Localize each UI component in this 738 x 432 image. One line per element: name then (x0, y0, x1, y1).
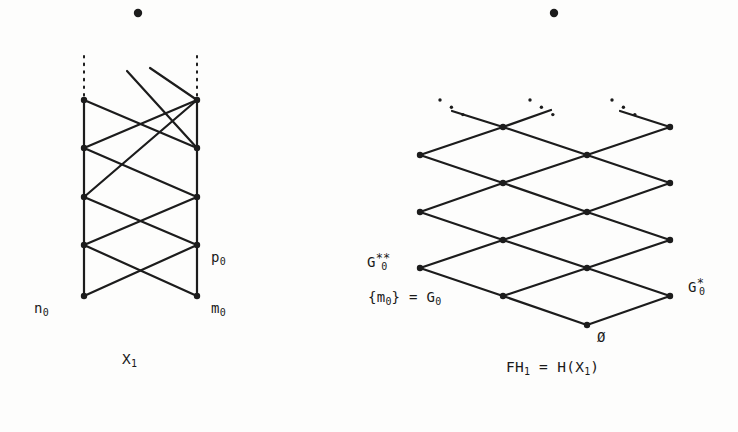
diamond-edge (420, 240, 503, 268)
ellipsis-dot (461, 113, 464, 116)
label-n0-text: n (34, 300, 43, 316)
diamond-edge (503, 155, 587, 183)
diamond-edge (587, 268, 670, 296)
lattice-node (194, 242, 200, 248)
diagonal-edge (84, 100, 197, 197)
floating-dots-group (134, 9, 558, 17)
lattice-node (81, 145, 87, 151)
lattice-node (667, 180, 673, 186)
diamond-edge (503, 296, 587, 325)
caption-x1-sub: 1 (131, 358, 137, 369)
label-empty-set-text: Ø (597, 329, 606, 345)
caption-fh1-equals: = (530, 359, 557, 375)
lattice-node (584, 265, 590, 271)
label-n0-sub: 0 (43, 307, 49, 318)
label-g0-double-star: G**0 (367, 252, 387, 272)
right-lattice-group (417, 98, 673, 328)
ellipsis-dot (551, 113, 554, 116)
label-m0-sub: 0 (220, 307, 226, 318)
lattice-node (417, 152, 423, 158)
label-m0-equals-g0: {m0} = G0 (368, 290, 441, 307)
diamond-edge (503, 183, 587, 212)
ellipsis-dot (622, 106, 625, 109)
diamond-edge (503, 127, 587, 155)
caption-fh1: FH1 = H(X1) (506, 360, 599, 377)
label-g0s-sub: 0 (699, 286, 705, 297)
floating-dot-right (550, 9, 558, 17)
diamond-edge (503, 212, 587, 240)
floating-dot-left (134, 9, 142, 17)
ellipsis-dot (438, 98, 441, 101)
caption-fh1-before: FH (506, 359, 524, 375)
lattice-node (417, 209, 423, 215)
lattice-node (194, 293, 200, 299)
lattice-node (667, 293, 673, 299)
lattice-node (194, 145, 200, 151)
lattice-figure-svg (0, 0, 738, 432)
label-g0ds-text: G (367, 254, 376, 270)
figure-page: n0 m0 p0 X1 G**0 {m0} = G0 Ø G*0 FH1 = H… (0, 0, 738, 432)
lattice-node (667, 124, 673, 130)
lattice-node (500, 124, 506, 130)
diamond-edge (503, 240, 587, 268)
caption-fh1-close: ) (590, 359, 599, 375)
lattice-node (500, 180, 506, 186)
lattice-node (81, 194, 87, 200)
diamond-edge (620, 111, 670, 127)
label-p0-sub: 0 (220, 256, 226, 267)
diagonal-edge (84, 148, 197, 197)
caption-x1: X1 (122, 352, 137, 369)
diamond-edge (503, 268, 587, 296)
label-m0-text: m (211, 300, 220, 316)
diamond-edge (587, 127, 670, 155)
lattice-node (584, 209, 590, 215)
diamond-edge (420, 212, 503, 240)
label-empty-set: Ø (597, 330, 606, 344)
diamond-edge (420, 183, 503, 212)
ellipsis-dot (633, 113, 636, 116)
label-m0g0-text2: } = G (392, 289, 436, 305)
lattice-node (194, 97, 200, 103)
lattice-node (194, 194, 200, 200)
ellipsis-dot (610, 98, 613, 101)
left-lattice-group (81, 56, 200, 299)
label-m0g0-text: {m (368, 289, 385, 305)
diamond-edge (503, 110, 551, 127)
label-m0: m0 (211, 301, 226, 318)
label-p0-text: p (211, 249, 220, 265)
diamond-edge (452, 111, 503, 127)
lattice-node (81, 293, 87, 299)
caption-x1-text: X (122, 351, 131, 367)
diagonal-edge (150, 68, 197, 100)
lattice-node (81, 242, 87, 248)
diamond-edge (587, 155, 670, 183)
diamond-edge (587, 183, 670, 212)
ellipsis-dot (540, 106, 543, 109)
ellipsis-dot (528, 98, 531, 101)
label-m0g0-sub2: 0 (435, 296, 441, 307)
diamond-edge (587, 212, 670, 240)
diamond-edge (420, 155, 503, 183)
diamond-edge (587, 240, 670, 268)
ellipsis-dot (450, 106, 453, 109)
lattice-node (584, 152, 590, 158)
lattice-node (81, 97, 87, 103)
lattice-node (500, 293, 506, 299)
label-g0-star: G*0 (688, 277, 705, 297)
label-g0s-text: G (688, 279, 697, 295)
label-g0ds-sub: 0 (381, 261, 387, 272)
diamond-edge (587, 296, 670, 325)
lattice-node (417, 265, 423, 271)
lattice-node (667, 237, 673, 243)
label-p0: p0 (211, 250, 226, 267)
caption-fh1-after: H(X (557, 359, 584, 375)
lattice-node (584, 322, 590, 328)
diamond-edge (420, 127, 503, 155)
label-n0: n0 (34, 301, 49, 318)
lattice-node (500, 237, 506, 243)
